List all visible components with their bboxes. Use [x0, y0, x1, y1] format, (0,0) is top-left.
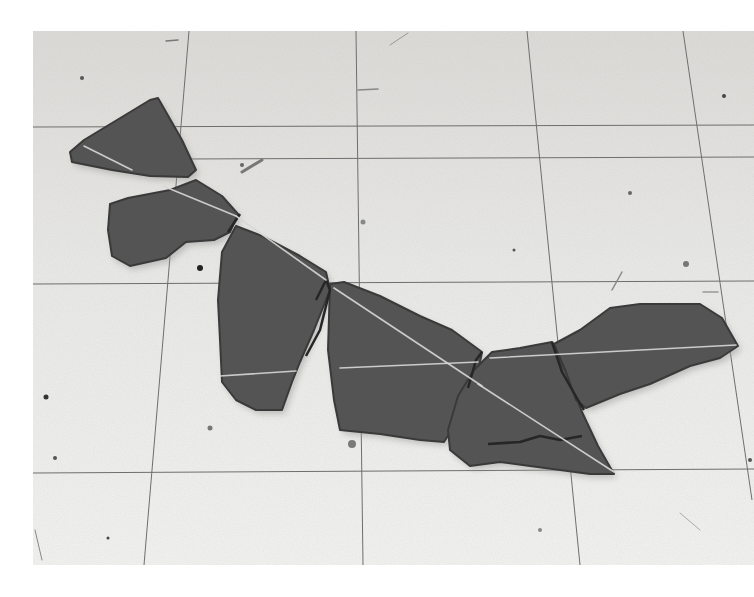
debris-speck: [628, 191, 632, 195]
debris-speck: [722, 94, 726, 98]
debris-speck: [538, 528, 542, 532]
debris-speck: [683, 261, 689, 267]
debris-speck: [53, 456, 57, 460]
debris-speck: [348, 440, 356, 448]
debris-speck: [513, 249, 516, 252]
floor-scratch: [358, 89, 378, 90]
debris-speck: [44, 395, 49, 400]
debris-speck: [208, 426, 213, 431]
debris-speck: [748, 458, 752, 462]
debris-speck: [80, 76, 84, 80]
photograph: [0, 0, 754, 597]
debris-speck: [240, 163, 244, 167]
debris-speck: [197, 265, 203, 271]
floor-photo: [33, 31, 754, 565]
floor-scratch: [166, 40, 178, 41]
debris-speck: [361, 220, 366, 225]
debris-speck: [107, 537, 110, 540]
